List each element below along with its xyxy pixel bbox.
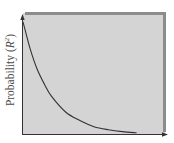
panel-top-border <box>25 12 166 15</box>
y-axis-label: Probability (R2) <box>4 34 16 106</box>
plot-panel <box>23 13 165 134</box>
chart <box>0 0 174 143</box>
panel-right-border <box>163 12 166 132</box>
